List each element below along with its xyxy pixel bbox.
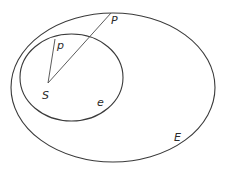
label-S: S [42,89,49,102]
outer-ellipse-E [11,13,215,162]
inner-ellipse-e [20,34,123,121]
ellipse-diagram: P p S e E [0,0,225,170]
label-e: e [97,96,104,109]
label-p: p [56,39,64,52]
label-P: P [111,14,118,27]
label-E: E [174,131,181,144]
